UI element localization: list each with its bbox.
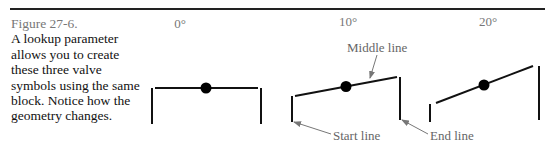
angle-label-20: 20° bbox=[479, 14, 497, 29]
valve-symbol-10deg: 10° Middle line Start line bbox=[292, 14, 408, 143]
valve-symbol-20deg: 20° End line bbox=[402, 14, 539, 143]
angle-label-0: 0° bbox=[174, 16, 186, 31]
valve-symbol-0deg: 0° bbox=[152, 16, 261, 124]
start-line-label: Start line bbox=[333, 128, 381, 143]
middle-line-label: Middle line bbox=[347, 40, 408, 55]
end-line-label: End line bbox=[430, 128, 474, 143]
angle-label-10: 10° bbox=[339, 14, 357, 29]
valve-diagram: 0° 10° Middle line Start line 20° End li… bbox=[0, 0, 545, 152]
